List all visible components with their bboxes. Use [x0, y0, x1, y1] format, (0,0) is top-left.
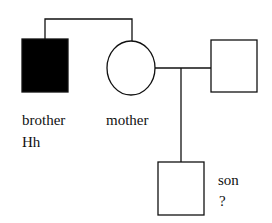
brother-label: brother	[22, 111, 65, 129]
sibship-line	[45, 19, 132, 41]
son-symbol	[158, 162, 204, 215]
mother-label: mother	[106, 111, 149, 129]
pedigree-diagram: brother Hh mother son ?	[0, 0, 272, 223]
son-genotype: ?	[219, 192, 226, 210]
brother-symbol	[22, 39, 68, 92]
mother-symbol	[107, 41, 155, 95]
brother-genotype: Hh	[22, 133, 40, 151]
father-symbol	[211, 40, 257, 92]
son-label: son	[218, 171, 239, 189]
